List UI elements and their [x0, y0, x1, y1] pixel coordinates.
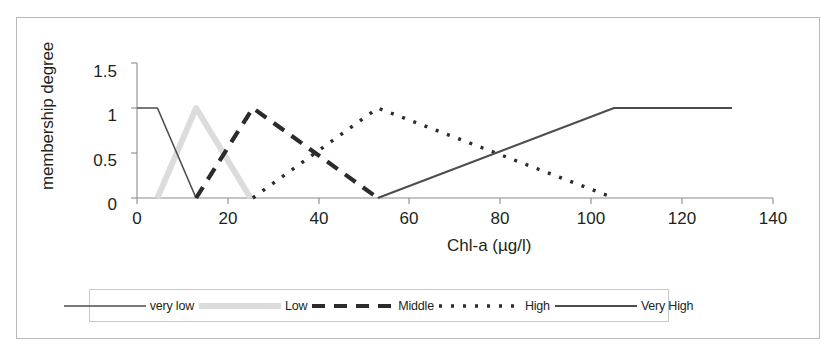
- series-line-high: [253, 108, 614, 198]
- legend-item-middle: Middle: [310, 299, 437, 313]
- legend-item-high: High: [437, 299, 553, 313]
- legend-swatch-very-high: [553, 299, 639, 313]
- legend-label-low: Low: [283, 299, 310, 313]
- chart-legend: very low Low Middle High Very High: [89, 289, 669, 322]
- legend-label-high: High: [523, 299, 553, 313]
- series-line-middle: [196, 108, 378, 198]
- legend-item-very-high: Very High: [553, 299, 696, 313]
- series-line-very-high: [378, 108, 732, 198]
- legend-swatch-middle: [310, 299, 396, 313]
- series-line-low: [157, 108, 250, 198]
- legend-swatch-very-low: [62, 299, 148, 313]
- legend-label-very-high: Very High: [639, 299, 696, 313]
- legend-swatch-low: [197, 299, 283, 313]
- y-tick-marks: [131, 63, 137, 198]
- axis-lines: [131, 63, 773, 204]
- legend-item-very-low: very low: [62, 299, 197, 313]
- chart-svg: [17, 18, 821, 233]
- figure-frame: membership degree 1.5 1 0.5 0 0 20 40 60…: [16, 17, 820, 339]
- legend-item-low: Low: [197, 299, 310, 313]
- x-axis-label: Chl-a (µg/l): [447, 236, 531, 256]
- legend-label-very-low: very low: [148, 299, 197, 313]
- chart-plot-area: membership degree 1.5 1 0.5 0 0 20 40 60…: [17, 18, 821, 268]
- legend-label-middle: Middle: [396, 299, 437, 313]
- x-tick-marks: [137, 198, 773, 204]
- legend-swatch-high: [437, 299, 523, 313]
- data-series-layer: [137, 108, 732, 198]
